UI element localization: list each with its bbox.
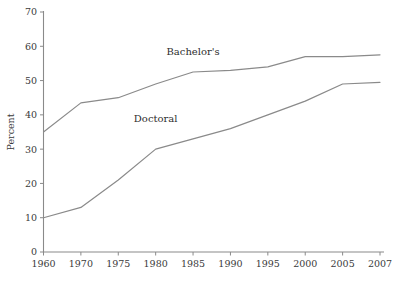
y-tick-label: 20: [25, 178, 37, 189]
x-tick-label: 1975: [106, 258, 130, 269]
y-axis-title: Percent: [5, 113, 16, 150]
x-tick-label: 1985: [181, 258, 205, 269]
series-label-bachelor-s: Bachelor's: [166, 46, 219, 57]
x-tick-label: 2005: [331, 258, 355, 269]
x-tick-label: 1970: [69, 258, 93, 269]
y-tick-label: 10: [25, 212, 37, 223]
series-line-bachelor-s: [44, 55, 381, 132]
x-axis: 1960197019751980198519901995200020052007: [31, 252, 392, 269]
y-tick-label: 0: [31, 246, 37, 257]
x-tick-label: 1990: [218, 258, 242, 269]
y-tick-label: 40: [25, 109, 37, 120]
y-tick-label: 30: [25, 144, 37, 155]
series-line-doctoral: [44, 82, 381, 217]
x-tick-label: 1960: [31, 258, 55, 269]
y-tick-label: 60: [25, 41, 37, 52]
y-tick-label: 50: [25, 75, 37, 86]
line-chart: 010203040506070 196019701975198019851990…: [0, 0, 394, 281]
series-annotations: Bachelor'sDoctoral: [134, 46, 220, 124]
x-tick-label: 2007: [368, 258, 392, 269]
chart-container: 010203040506070 196019701975198019851990…: [0, 0, 394, 281]
x-tick-label: 2000: [293, 258, 317, 269]
y-axis: 010203040506070: [25, 6, 44, 257]
series-label-doctoral: Doctoral: [134, 113, 178, 124]
series-lines: [44, 55, 381, 218]
y-tick-label: 70: [25, 6, 37, 17]
x-tick-label: 1995: [256, 258, 280, 269]
x-tick-label: 1980: [144, 258, 168, 269]
axis-titles: Percent: [5, 113, 16, 150]
